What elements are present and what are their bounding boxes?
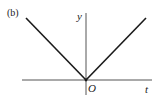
panel-label: (b) bbox=[7, 7, 19, 19]
v-shape-diagram: (b) y O t bbox=[0, 0, 162, 101]
right-branch-line bbox=[86, 18, 146, 80]
left-branch-line bbox=[26, 18, 86, 80]
t-axis-label: t bbox=[145, 83, 149, 95]
diagram-canvas: (b) y O t bbox=[0, 0, 162, 101]
origin-label: O bbox=[88, 82, 96, 94]
y-axis-label: y bbox=[76, 10, 82, 22]
origin-point bbox=[85, 79, 88, 82]
